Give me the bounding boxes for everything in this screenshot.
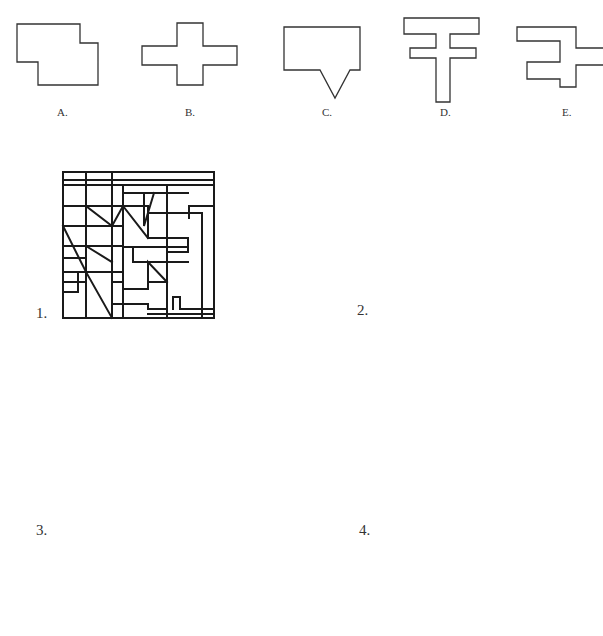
option-label-d: D. — [440, 106, 451, 118]
option-label-c: C. — [322, 106, 332, 118]
option-label-e: E. — [562, 106, 571, 118]
figure-number-3: 3. — [36, 522, 47, 539]
option-label-b: B. — [185, 106, 195, 118]
figure-1-grid — [63, 172, 214, 318]
figure-number-4: 4. — [359, 522, 370, 539]
option-shape-a — [17, 24, 98, 85]
option-label-a: A. — [57, 106, 68, 118]
puzzle-canvas — [0, 0, 603, 636]
option-shape-e — [517, 27, 603, 87]
figure-number-1: 1. — [36, 305, 47, 322]
option-shape-d — [404, 18, 479, 102]
option-shape-b — [142, 23, 237, 85]
figure-number-2: 2. — [357, 302, 368, 319]
option-shape-c — [284, 27, 360, 98]
